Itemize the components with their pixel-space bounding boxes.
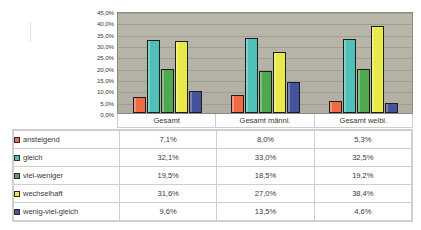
legend-cell: viel-weniger <box>14 167 120 185</box>
y-axis-tick-label: 20,0% <box>97 65 114 72</box>
legend-cell: gleich <box>14 149 120 167</box>
legend-cell: ansteigend <box>14 131 120 149</box>
data-table-body: ansteigend7,1%8,0%5,3%gleich32,1%33,0%32… <box>14 131 412 221</box>
bar <box>371 26 384 113</box>
legend-swatch-icon <box>14 137 20 143</box>
bar <box>231 95 244 113</box>
bar <box>343 39 356 113</box>
y-axis-tick-label: 40,0% <box>97 20 114 27</box>
bar-chart: 0,0%5,0%10,0%15,0%20,0%25,0%30,0%35,0%40… <box>0 8 421 128</box>
legend-label: viel-weniger <box>23 171 63 180</box>
table-value-cell: 5,3% <box>314 131 411 149</box>
legend-cell: wechselhaft <box>14 185 120 203</box>
legend-swatch-icon <box>14 173 20 179</box>
table-value-cell: 18,5% <box>217 167 314 185</box>
y-axis-tick-label: 0,0% <box>100 111 114 118</box>
table-value-cell: 38,4% <box>314 185 411 203</box>
table-value-cell: 32,5% <box>314 149 411 167</box>
data-table: ansteigend7,1%8,0%5,3%gleich32,1%33,0%32… <box>12 129 413 222</box>
bar <box>161 69 174 113</box>
data-table-element: ansteigend7,1%8,0%5,3%gleich32,1%33,0%32… <box>13 130 412 221</box>
table-row: gleich32,1%33,0%32,5% <box>14 149 412 167</box>
legend-swatch-icon <box>14 191 20 197</box>
bar <box>147 40 160 113</box>
y-axis-tick-label: 35,0% <box>97 31 114 38</box>
legend-label: wenig-viel-gleich <box>23 207 78 216</box>
legend-label: wechselhaft <box>23 189 63 198</box>
bar <box>175 41 188 113</box>
table-row: viel-weniger19,5%18,5%19,2% <box>14 167 412 185</box>
y-axis: 0,0%5,0%10,0%15,0%20,0%25,0%30,0%35,0%40… <box>74 8 116 114</box>
category-label: Gesamt weibl. <box>315 114 412 127</box>
table-row: wenig-viel-gleich9,6%13,5%4,6% <box>14 203 412 221</box>
table-value-cell: 19,5% <box>120 167 217 185</box>
legend-swatch-icon <box>14 209 20 215</box>
legend-swatch-icon <box>14 155 20 161</box>
category-label: Gesamt <box>118 114 216 127</box>
table-value-cell: 9,6% <box>120 203 217 221</box>
bar <box>259 71 272 113</box>
table-value-cell: 31,6% <box>120 185 217 203</box>
table-value-cell: 13,5% <box>217 203 314 221</box>
table-value-cell: 33,0% <box>217 149 314 167</box>
bar <box>357 69 370 113</box>
bar <box>329 101 342 113</box>
legend-label: ansteigend <box>23 135 60 144</box>
bar <box>189 91 202 113</box>
y-axis-tick-label: 10,0% <box>97 88 114 95</box>
bar <box>245 38 258 113</box>
bar-group <box>314 13 412 113</box>
table-value-cell: 32,1% <box>120 149 217 167</box>
bar-group <box>118 13 216 113</box>
bar <box>273 52 286 113</box>
table-row: wechselhaft31,6%27,0%38,4% <box>14 185 412 203</box>
table-value-cell: 19,2% <box>314 167 411 185</box>
legend-cell: wenig-viel-gleich <box>14 203 120 221</box>
bar-groups <box>118 13 412 113</box>
table-row: ansteigend7,1%8,0%5,3% <box>14 131 412 149</box>
y-axis-tick-label: 25,0% <box>97 54 114 61</box>
table-value-cell: 4,6% <box>314 203 411 221</box>
legend-label: gleich <box>23 153 43 162</box>
bar <box>287 82 300 113</box>
bar <box>385 103 398 113</box>
table-value-cell: 27,0% <box>217 185 314 203</box>
category-axis: GesamtGesamt männl.Gesamt weibl. <box>117 114 413 128</box>
y-axis-tick-label: 30,0% <box>97 43 114 50</box>
chart-page: 0,0%5,0%10,0%15,0%20,0%25,0%30,0%35,0%40… <box>0 0 421 230</box>
bar <box>133 97 146 113</box>
category-label: Gesamt männl. <box>216 114 314 127</box>
y-axis-tick-label: 5,0% <box>100 99 114 106</box>
y-axis-tick-label: 45,0% <box>97 9 114 16</box>
bar-group <box>216 13 314 113</box>
plot-area <box>117 12 413 114</box>
table-value-cell: 7,1% <box>120 131 217 149</box>
y-axis-tick-label: 15,0% <box>97 77 114 84</box>
table-value-cell: 8,0% <box>217 131 314 149</box>
